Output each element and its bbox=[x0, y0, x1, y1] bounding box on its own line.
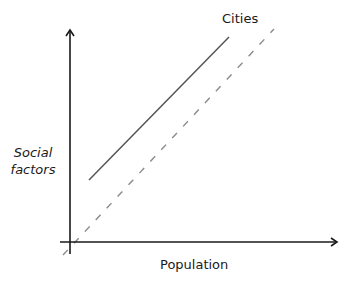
y-axis-label-line2: factors bbox=[6, 161, 60, 178]
cities-line bbox=[89, 37, 229, 180]
dashed-reference-line bbox=[63, 29, 274, 255]
cities-series-label: Cities bbox=[222, 11, 258, 27]
y-axis-label: Social factors bbox=[6, 144, 60, 178]
x-axis-label: Population bbox=[160, 257, 228, 273]
y-axis-label-line1: Social bbox=[6, 144, 60, 161]
diagram-canvas bbox=[0, 0, 349, 284]
